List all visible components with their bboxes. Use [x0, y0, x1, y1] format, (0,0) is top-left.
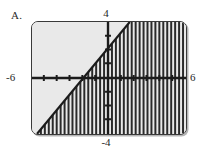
- figure-container: A.: [0, 0, 206, 157]
- y-max-tick-label: 4: [0, 7, 206, 19]
- calculator-screen-frame: [31, 21, 187, 135]
- y-min-tick-label: -4: [0, 136, 206, 148]
- x-max-tick-label: 6: [190, 71, 196, 83]
- plot-area: [32, 22, 186, 134]
- graph-svg: [32, 22, 186, 134]
- x-min-tick-label: -6: [6, 71, 15, 83]
